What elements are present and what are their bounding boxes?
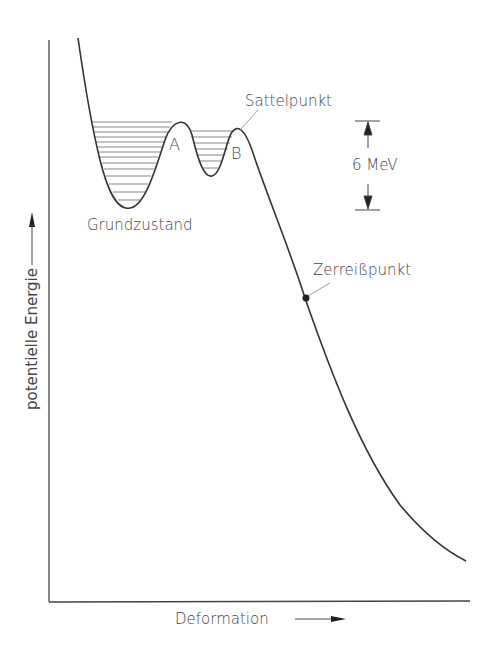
saddle-leader-line	[240, 110, 258, 130]
x-axis-label: Deformation	[175, 610, 269, 628]
peak-b-label: B	[231, 144, 241, 163]
potential-curve	[78, 38, 466, 561]
saddle-point-label: Sattelpunkt	[245, 92, 332, 110]
y-axis-label: potentielle Energie	[23, 224, 41, 454]
hatching-well-1	[92, 122, 172, 200]
energy-scale-label: 6 MeV	[352, 156, 398, 174]
hatching-well-2	[190, 131, 234, 168]
x-axis-arrow-icon	[295, 616, 346, 622]
scission-leader-line	[308, 283, 330, 296]
scission-point-marker	[303, 295, 310, 302]
x-axis	[49, 601, 470, 602]
ground-state-label: Grundzustand	[87, 216, 193, 234]
peak-a-label: A	[169, 135, 180, 154]
scission-point-label: Zerreißpunkt	[313, 261, 411, 279]
potential-energy-diagram	[0, 0, 486, 650]
